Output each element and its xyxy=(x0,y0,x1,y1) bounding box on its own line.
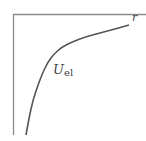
curve-label: Uel xyxy=(53,63,73,78)
curve-label-subscript: el xyxy=(64,67,73,78)
electrostatic-potential-curve xyxy=(26,25,129,135)
x-axis-label: r xyxy=(132,12,137,23)
curve-label-main: U xyxy=(53,62,64,77)
